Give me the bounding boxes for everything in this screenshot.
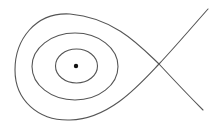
separatrix-loop bbox=[15, 14, 159, 120]
center-equilibrium-point bbox=[74, 64, 78, 68]
phase-portrait-diagram bbox=[0, 0, 223, 131]
separatrix-branch-lower-right bbox=[159, 64, 203, 110]
separatrix-branch-upper-right bbox=[159, 9, 208, 64]
